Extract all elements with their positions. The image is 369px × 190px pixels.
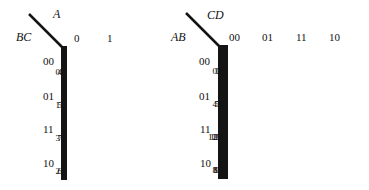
kmap-cell: 6 — [225, 79, 227, 112]
minterm-number: 10 — [214, 166, 223, 175]
column-label: 10 — [329, 32, 340, 43]
minterm-number: 2 — [219, 67, 224, 76]
column-label: 00 — [229, 32, 240, 43]
row-label: 01 — [199, 91, 210, 102]
column-label: 01 — [262, 32, 273, 43]
row-variable-label: AB — [171, 31, 186, 43]
kmap-grid: 0 1 3 2 4 5 7 6 12 13 15 14 8 9 11 10 — [218, 45, 228, 179]
kmap-cell: 14 — [225, 112, 227, 145]
column-variable-label: CD — [207, 9, 224, 21]
minterm-number: 14 — [214, 133, 223, 142]
kmap-row: 0 1 3 2 — [219, 46, 227, 79]
row-label: 00 — [199, 56, 210, 67]
kmap-cell: 2 — [225, 46, 227, 79]
kmap-row: 8 9 11 10 — [219, 145, 227, 178]
minterm-number: 6 — [219, 100, 224, 109]
kmap-row: 4 5 7 6 — [219, 79, 227, 112]
row-label: 10 — [200, 158, 211, 169]
diagonal-divider-line — [0, 0, 369, 190]
kmap-cell: 10 — [225, 145, 227, 178]
column-label: 11 — [296, 32, 307, 43]
kmap-row: 12 13 15 14 — [219, 112, 227, 145]
